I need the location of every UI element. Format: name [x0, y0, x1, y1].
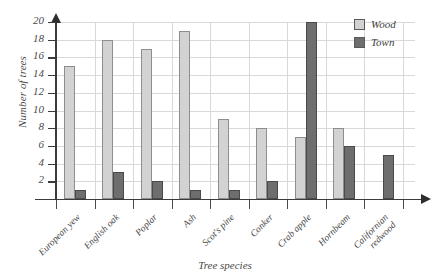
x-axis-tick: [287, 200, 288, 209]
gridline-vertical: [133, 22, 134, 199]
x-axis-arrow-icon: [421, 194, 431, 204]
x-axis-tick: [403, 200, 404, 209]
y-axis-tick: [48, 93, 56, 94]
y-axis-tick-label: 16: [18, 49, 44, 61]
gridline-vertical: [249, 22, 250, 199]
legend-item-town[interactable]: Town: [354, 34, 430, 50]
y-axis-tick-label: 6: [18, 138, 44, 150]
legend-swatch-icon: [354, 37, 365, 48]
bar-wood-european-yew: [64, 66, 75, 199]
gridline-vertical: [95, 22, 96, 199]
x-axis-tick: [56, 200, 57, 209]
bar-wood-scot-s-pine: [218, 119, 229, 199]
x-axis-tick: [364, 200, 365, 209]
bar-wood-ash: [179, 31, 190, 199]
y-axis-tick-label: 4: [18, 156, 44, 168]
bar-wood-poplar: [141, 49, 152, 199]
legend-item-wood[interactable]: Wood: [354, 16, 430, 32]
y-axis-tick-label: 20: [18, 14, 44, 26]
gridline-vertical: [210, 22, 211, 199]
bar-town-conker: [267, 181, 278, 199]
legend-swatch-icon: [354, 19, 365, 30]
bar-wood-crab-apple: [295, 137, 306, 199]
x-axis-tick: [249, 200, 250, 209]
gridline-vertical: [326, 22, 327, 199]
bar-chart: Number of trees Tree species 20181614121…: [0, 0, 443, 280]
bar-wood-conker: [256, 128, 267, 199]
bar-town-californian-redwood: [383, 155, 394, 199]
y-axis-tick: [48, 111, 56, 112]
y-axis-tick: [48, 164, 56, 165]
x-axis-title: Tree species: [140, 259, 310, 271]
y-axis-tick: [48, 40, 56, 41]
y-axis-tick-label: 18: [18, 32, 44, 44]
y-axis-tick-label: 2: [18, 173, 44, 185]
y-axis-tick: [48, 22, 56, 23]
y-axis-tick: [48, 146, 56, 147]
bar-town-english-oak: [113, 172, 124, 199]
bar-town-crab-apple: [306, 22, 317, 199]
legend-label: Town: [371, 36, 394, 48]
y-axis-tick-label: 12: [18, 85, 44, 97]
bar-town-poplar: [152, 181, 163, 199]
x-axis-tick: [172, 200, 173, 209]
x-axis-tick: [210, 200, 211, 209]
x-axis-tick: [95, 200, 96, 209]
y-axis-tick-label: 14: [18, 67, 44, 79]
y-axis-tick-label: 10: [18, 103, 44, 115]
y-axis-tick: [48, 75, 56, 76]
bar-town-hornbeam: [344, 146, 355, 199]
gridline-vertical: [287, 22, 288, 199]
x-axis-tick: [326, 200, 327, 209]
chart-legend: WoodTown: [354, 16, 430, 52]
bar-wood-hornbeam: [333, 128, 344, 199]
y-axis-tick: [48, 57, 56, 58]
y-axis-tick: [48, 181, 56, 182]
y-axis-tick-label: 8: [18, 120, 44, 132]
gridline-vertical: [172, 22, 173, 199]
legend-label: Wood: [371, 18, 396, 30]
x-axis-tick: [133, 200, 134, 209]
bar-wood-english-oak: [102, 40, 113, 199]
y-axis-tick: [48, 128, 56, 129]
